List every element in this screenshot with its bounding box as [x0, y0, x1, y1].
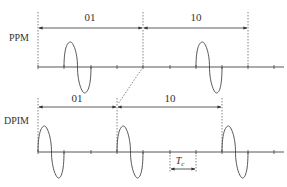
ppm-pulse-2: [196, 42, 222, 93]
dpim-symbol-label-1: 01: [72, 92, 83, 104]
ppm-symbol-label-2: 10: [191, 11, 203, 23]
ppm-dpim-connector: [118, 67, 143, 104]
dpim-label: DPIM: [4, 115, 29, 126]
dpim-signal: 01 10 DPIM Tc: [4, 92, 284, 178]
ppm-label: PPM: [9, 32, 29, 43]
ppm-dpim-diagram: 01 10 PPM 01 10 DPIM: [0, 0, 287, 187]
slot-duration-label: Tc: [176, 155, 186, 168]
dpim-symbol-label-2: 10: [165, 92, 177, 104]
ppm-symbol-label-1: 01: [85, 11, 96, 23]
ppm-pulse-1: [64, 42, 91, 93]
ppm-signal: 01 10 PPM: [9, 11, 284, 93]
